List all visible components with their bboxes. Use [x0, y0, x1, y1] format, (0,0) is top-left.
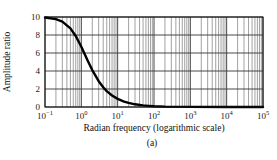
- y-tick-label: 0: [36, 102, 41, 112]
- x-tick-label: 102: [148, 109, 160, 121]
- y-tick-label: 8: [36, 30, 41, 40]
- y-axis-title: Amplitude ratio: [2, 32, 12, 93]
- x-tick-label: 104: [221, 109, 234, 121]
- y-tick-label: 2: [36, 84, 41, 94]
- x-tick-label: 105: [257, 109, 269, 121]
- x-tick-label: 103: [184, 109, 196, 121]
- minor-gridlines: [56, 17, 261, 107]
- y-tick-label: 10: [31, 12, 41, 22]
- x-axis-title: Radian frequency (logarithmic scale): [83, 123, 224, 134]
- x-tick-labels: 10−1100101102103104105: [37, 109, 269, 121]
- y-tick-label: 4: [36, 66, 41, 76]
- figure-caption: (a): [147, 138, 158, 149]
- y-tick-labels: 0246810: [31, 12, 41, 112]
- y-tick-label: 6: [36, 48, 41, 58]
- amplitude-ratio-chart: 10−1100101102103104105 0246810 Amplitude…: [0, 0, 277, 160]
- x-tick-label: 100: [75, 109, 87, 121]
- x-tick-label: 101: [112, 109, 124, 121]
